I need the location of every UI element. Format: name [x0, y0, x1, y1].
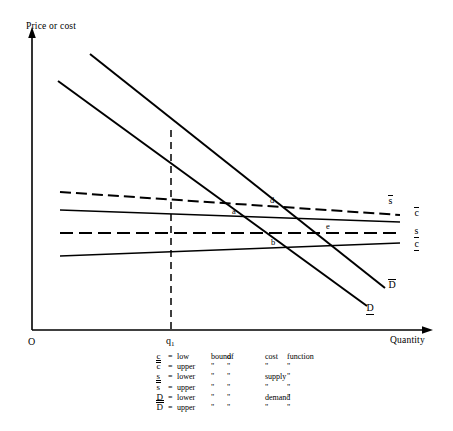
- legend-row: s = lower " " supply ": [156, 371, 314, 381]
- legend-col4: ": [265, 403, 287, 413]
- y-axis-title: Price or cost: [26, 22, 76, 32]
- legend-col1: low: [177, 352, 211, 362]
- legend-col5: ": [287, 383, 290, 393]
- legend-col4: ": [265, 362, 287, 372]
- y-axis: [28, 27, 36, 330]
- point-label-d: d: [270, 196, 274, 205]
- legend-col1: lower: [177, 393, 211, 403]
- point-label-e: e: [326, 222, 330, 231]
- point-label-b: b: [271, 238, 275, 247]
- legend-row: D = lower " " demand ": [156, 392, 314, 402]
- legend-row: c = upper " " " ": [156, 361, 314, 371]
- underbar-s: s: [414, 226, 419, 236]
- legend-col5: ": [287, 393, 290, 403]
- legend-equals: =: [168, 362, 177, 372]
- legend-col2: ": [211, 372, 227, 382]
- curve-label-cost-upper: c: [414, 208, 419, 218]
- curve-label-supply-lower: s: [414, 226, 419, 236]
- legend-col3: ": [227, 383, 265, 393]
- legend-col3: ": [227, 393, 265, 403]
- point-label-a: a: [232, 207, 236, 216]
- curve-label-supply-upper: s: [388, 196, 393, 206]
- legend-col5: ": [287, 372, 290, 382]
- legend-col2: ": [211, 393, 227, 403]
- legend-symbol: s: [156, 382, 168, 392]
- legend-col3: ": [227, 362, 265, 372]
- overbar-c: c: [414, 208, 419, 218]
- legend-col4: supply: [265, 372, 287, 382]
- legend-symbol: D: [156, 402, 168, 412]
- q1-tick-label: q1: [166, 336, 175, 346]
- legend-col3: of: [227, 352, 265, 362]
- legend-col1: upper: [177, 383, 211, 393]
- legend-col2: ": [211, 362, 227, 372]
- legend-col1: upper: [177, 403, 211, 413]
- legend-equals: =: [168, 372, 177, 382]
- legend-symbol: c: [156, 361, 168, 371]
- legend-equals: =: [168, 352, 177, 362]
- legend-equals: =: [168, 393, 177, 403]
- legend-row: c = low bound of cost function: [156, 351, 314, 361]
- curve-cost-lower: [60, 243, 400, 256]
- legend-col1: upper: [177, 362, 211, 372]
- curve-label-demand-upper: D: [388, 280, 396, 290]
- underbar-D: D: [366, 303, 374, 313]
- origin-label: O: [28, 337, 35, 347]
- legend-col2: ": [211, 403, 227, 413]
- legend-col5: ": [287, 403, 290, 413]
- legend-equals: =: [168, 403, 177, 413]
- legend-col2: ": [211, 383, 227, 393]
- legend-col1: lower: [177, 372, 211, 382]
- legend-col2: bound: [211, 352, 227, 362]
- legend-col5: function: [287, 352, 314, 362]
- legend-equals: =: [168, 383, 177, 393]
- curve-label-demand-lower: D: [366, 303, 374, 313]
- legend-col3: ": [227, 403, 265, 413]
- q1-subscript: 1: [171, 340, 175, 348]
- legend: c = low bound of cost function c = upper…: [156, 351, 314, 412]
- legend-row: s = upper " " " ": [156, 382, 314, 392]
- curve-demand-lower: [58, 81, 367, 306]
- economics-diagram: Price or cost Quantity O q1 a d e b s c …: [0, 0, 453, 431]
- overbar-s: s: [388, 196, 393, 206]
- underbar-c: c: [414, 239, 419, 249]
- legend-col4: ": [265, 383, 287, 393]
- overbar-D: D: [388, 280, 396, 290]
- legend-col3: ": [227, 372, 265, 382]
- legend-col4: demand: [265, 393, 287, 403]
- x-axis: [32, 326, 433, 334]
- x-axis-title: Quantity: [390, 336, 425, 346]
- curve-label-cost-lower: c: [414, 239, 419, 249]
- legend-col4: cost: [265, 352, 287, 362]
- legend-col5: ": [287, 362, 290, 372]
- legend-row: D = upper " " " ": [156, 402, 314, 412]
